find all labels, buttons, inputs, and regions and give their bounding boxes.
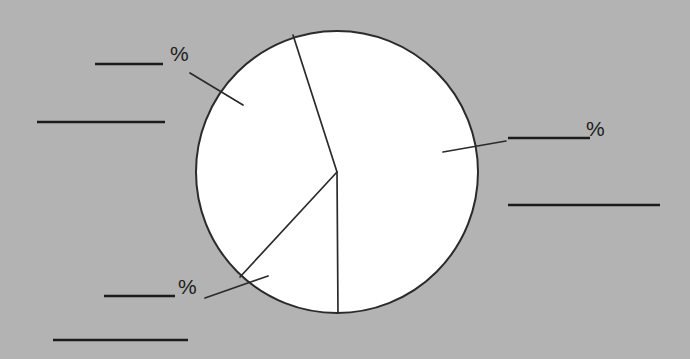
pie-slice-divider-bottom bbox=[337, 172, 338, 313]
percent-symbol-top-left: % bbox=[170, 43, 189, 64]
percent-symbol-right: % bbox=[586, 118, 605, 139]
percent-symbol-bottom-left: % bbox=[178, 276, 197, 297]
worksheet-canvas: % % % bbox=[0, 0, 690, 359]
pie-chart-figure bbox=[0, 0, 690, 359]
